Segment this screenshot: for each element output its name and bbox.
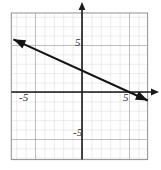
- x-axis-tick-label-positive-5: 5: [123, 92, 129, 103]
- y-axis-tick-label-positive-5: 5: [75, 37, 81, 48]
- graph-screenshot: -5 5 5 -5: [0, 0, 161, 170]
- y-axis-tick-label-negative-5: -5: [73, 127, 82, 138]
- coordinate-plane-chart: [0, 0, 161, 170]
- x-axis-tick-label-negative-5: -5: [19, 92, 28, 103]
